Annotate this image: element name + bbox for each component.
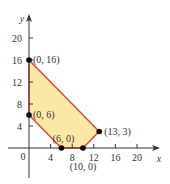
vertex-label: (10, 0) — [70, 161, 97, 173]
origin-label: 0 — [21, 151, 26, 162]
vertex-point — [26, 112, 32, 118]
vertex-point — [26, 57, 32, 63]
vertex-label: (13, 3) — [104, 126, 131, 138]
x-tick-label: 20 — [132, 152, 142, 163]
y-axis-label: y — [19, 13, 25, 24]
x-axis-label: x — [156, 153, 162, 164]
x-tick-label: 4 — [48, 152, 53, 163]
vertex-point — [96, 129, 102, 135]
y-tick-label: 4 — [17, 121, 22, 132]
y-tick-label: 12 — [12, 77, 22, 88]
feasible-region-chart: xy0 4812162048121620 (0, 16)(0, 6)(6, 0)… — [0, 0, 170, 184]
vertex-label: (0, 16) — [33, 54, 60, 66]
y-tick-label: 20 — [12, 33, 22, 44]
vertex-point — [59, 145, 65, 151]
vertex-label: (6, 0) — [53, 133, 75, 145]
y-tick-label: 8 — [17, 99, 22, 110]
vertex-point — [80, 145, 86, 151]
x-tick-label: 16 — [110, 152, 120, 163]
y-tick-label: 16 — [12, 55, 22, 66]
vertex-label: (0, 6) — [33, 109, 55, 121]
